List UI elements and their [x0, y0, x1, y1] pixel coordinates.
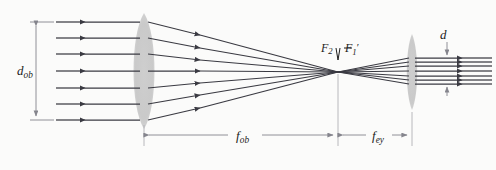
objective-focal-length-label: fob — [236, 129, 249, 145]
eyepiece-focal-point-label: F2 — [321, 42, 333, 56]
exit-pupil-diameter-label: d — [440, 28, 447, 41]
eyepiece-focal-length-label: fey — [372, 129, 384, 145]
objective-diameter-label: dob — [17, 64, 33, 80]
optics-figure-panel: dob fob fey d F2 F1′ — [0, 0, 496, 170]
exit-ray-bundle — [415, 58, 492, 84]
objective-focal-point-label: F1′ — [345, 42, 359, 56]
